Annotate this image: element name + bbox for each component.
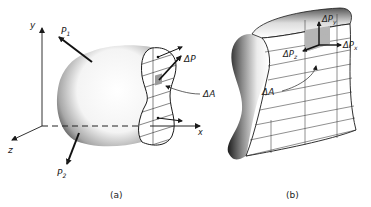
delta-a-label-a: ΔA: [202, 89, 215, 99]
y-axis-label: y: [29, 20, 36, 30]
z-axis: [12, 126, 42, 140]
caption-b: (b): [286, 190, 299, 200]
stress-diagram: y z x P1 P2 ΔP ΔA (a): [0, 0, 371, 207]
p2-label: P2: [57, 168, 66, 179]
z-axis-label: z: [7, 145, 13, 155]
force-p1-arrow: [59, 37, 92, 62]
panel-b: ΔPy ΔPx ΔPz ΔA (b): [228, 8, 358, 200]
delta-a-label-b: ΔA: [261, 87, 274, 97]
panel-a: y z x P1 P2 ΔP ΔA (a): [7, 20, 215, 200]
caption-a: (a): [110, 190, 123, 200]
x-axis-label: x: [197, 128, 203, 137]
delta-px-label: ΔPx: [342, 40, 358, 51]
delta-p-label: ΔP: [183, 54, 196, 64]
delta-a-element: [155, 73, 162, 85]
p1-label: P1: [61, 26, 70, 37]
